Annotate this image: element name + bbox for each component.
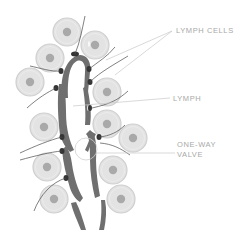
- label-valve: VALVE: [177, 150, 203, 159]
- lymph-cell: [36, 44, 64, 72]
- label-lymph-cells: LYMPH CELLS: [176, 26, 234, 35]
- vessel-right-bottom: [99, 200, 106, 230]
- lymph-cell: [53, 18, 81, 46]
- lymph-cell: [33, 153, 61, 181]
- lymph-cell: [119, 124, 147, 152]
- lymph-cells-group: [16, 18, 147, 213]
- lymph-cell: [107, 185, 135, 213]
- lymph-cell: [40, 185, 68, 213]
- label-one-way: ONE-WAY: [177, 140, 216, 149]
- vessel-left-bottom: [71, 202, 86, 230]
- lymph-vessel-diagram: [0, 0, 251, 240]
- lymph-cell: [93, 78, 121, 106]
- label-lymph: LYMPH: [173, 94, 201, 103]
- lymph-cell: [93, 110, 121, 138]
- lymph-cell: [30, 113, 58, 141]
- lymph-cell: [16, 68, 44, 96]
- lymph-cell: [99, 156, 127, 184]
- lymph-cell: [81, 31, 109, 59]
